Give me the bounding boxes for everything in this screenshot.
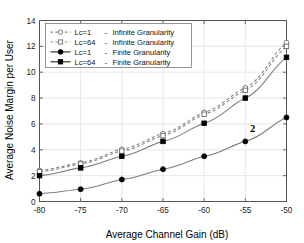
legend-marker bbox=[58, 30, 62, 34]
y-tick-label: 10 bbox=[26, 68, 36, 77]
legend-label-granularity: Infinite Granularity bbox=[113, 38, 175, 47]
legend-marker bbox=[58, 60, 62, 64]
data-point-marker bbox=[120, 149, 124, 153]
x-tick-label: -70 bbox=[116, 206, 128, 215]
data-point-marker bbox=[284, 115, 289, 120]
y-tick-label: 8 bbox=[31, 94, 36, 103]
chart-legend[interactable]: Lc=1-Infinite GranularityLc=64-Infinite … bbox=[46, 24, 192, 68]
legend-label-lc: Lc=1 bbox=[75, 28, 92, 37]
y-tick-label: 14 bbox=[26, 17, 36, 26]
data-point-marker bbox=[161, 167, 166, 172]
data-point-marker bbox=[243, 96, 248, 101]
data-point-marker bbox=[78, 166, 83, 171]
chart-canvas: -80-75-70-65-60-55-50 02468101214 2 Lc=1… bbox=[0, 0, 304, 243]
y-tick-label: 4 bbox=[31, 146, 36, 155]
data-point-marker bbox=[161, 139, 166, 144]
chart-annotations: 2 bbox=[250, 123, 255, 134]
y-tick-label: 0 bbox=[31, 198, 36, 207]
x-axis-title: Average Channel Gain (dB) bbox=[106, 229, 229, 240]
y-axis-title: Average Noise Margin per User bbox=[4, 39, 15, 180]
x-tick-label: -60 bbox=[198, 206, 210, 215]
legend-label-granularity: Finite Granularity bbox=[113, 58, 171, 67]
data-point-marker bbox=[37, 173, 42, 178]
data-point-marker bbox=[119, 177, 124, 182]
legend-label-granularity: Infinite Granularity bbox=[113, 28, 175, 37]
legend-label-lc: Lc=1 bbox=[75, 48, 92, 57]
data-point-marker bbox=[202, 112, 206, 116]
x-tick-label: -65 bbox=[157, 206, 169, 215]
legend-label-lc: Lc=64 bbox=[75, 58, 96, 67]
x-tick-labels: -80-75-70-65-60-55-50 bbox=[34, 206, 293, 215]
y-tick-label: 2 bbox=[31, 172, 36, 181]
data-point-marker bbox=[161, 133, 165, 137]
data-point-marker bbox=[284, 44, 288, 48]
data-point-marker bbox=[243, 139, 248, 144]
data-point-marker bbox=[78, 187, 83, 192]
annotation-label: 2 bbox=[250, 123, 255, 134]
data-point-marker bbox=[202, 154, 207, 159]
y-tick-label: 12 bbox=[26, 42, 36, 51]
x-tick-label: -80 bbox=[34, 206, 46, 215]
y-tick-labels: 02468101214 bbox=[26, 17, 36, 207]
data-point-marker bbox=[202, 121, 207, 126]
x-tick-label: -55 bbox=[239, 206, 251, 215]
legend-label-granularity: Finite Granularity bbox=[113, 48, 171, 57]
chart-figure: -80-75-70-65-60-55-50 02468101214 2 Lc=1… bbox=[0, 0, 304, 243]
legend-marker bbox=[58, 40, 62, 44]
data-point-marker bbox=[120, 154, 125, 159]
data-point-marker bbox=[243, 88, 247, 92]
legend-label-lc: Lc=64 bbox=[75, 38, 96, 47]
y-tick-label: 6 bbox=[31, 120, 36, 129]
x-tick-label: -75 bbox=[75, 206, 87, 215]
legend-marker bbox=[58, 50, 63, 55]
data-point-marker bbox=[284, 55, 289, 60]
x-tick-label: -50 bbox=[281, 206, 293, 215]
data-point-marker bbox=[37, 191, 42, 196]
